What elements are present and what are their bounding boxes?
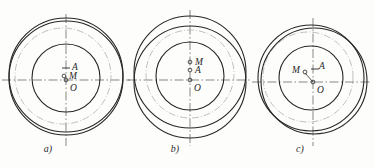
figure-a-caption: a) [33,143,63,154]
figure-c-label-O: O [317,85,324,95]
figure-a-point-M-marker [62,74,66,78]
figure-c-label-M: M [291,65,301,75]
figure-c-inner-circle [279,46,343,110]
figure-b-label-A: A [194,65,201,75]
figure-a-label-M: M [68,71,78,81]
figure-a-phantom-circle [15,28,111,124]
figure-c-phantom-circle [263,32,353,122]
figure-b-caption: b) [160,143,190,154]
figure-sheet: A M O M A O [0,0,374,168]
figure-b: M A O [128,10,252,146]
figure-b-label-O: O [194,83,201,93]
figure-c-caption: c) [285,143,315,154]
figure-a-label-O: O [70,83,77,93]
figure-c-outer-circle-2 [261,28,367,134]
figure-a: A M O [2,14,130,146]
figure-c-label-A: A [318,61,325,71]
figure-c: M A O [252,18,372,146]
